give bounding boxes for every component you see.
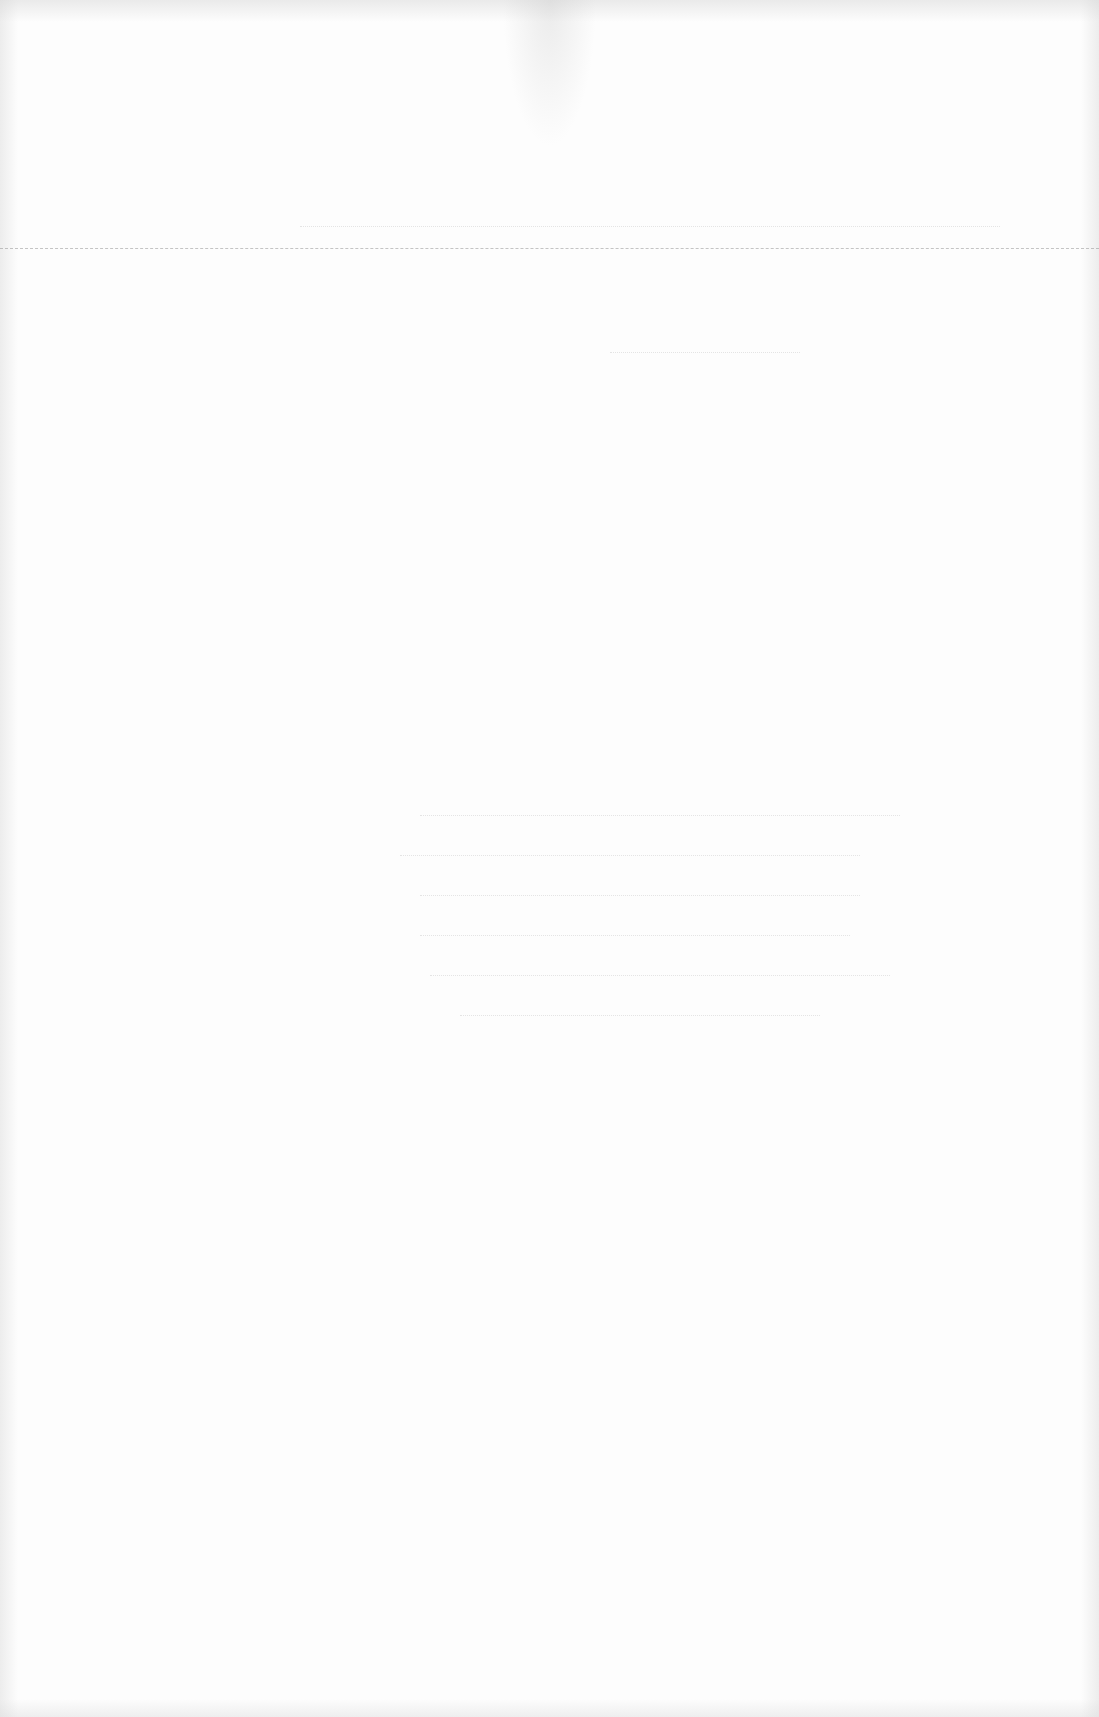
bleed-through-line: [300, 226, 1000, 227]
bleed-through-line: [610, 352, 800, 353]
scanned-page: [0, 0, 1099, 1717]
bleed-through-line: [420, 815, 900, 816]
bleed-through-line: [420, 895, 860, 896]
bleed-through-line: [420, 935, 850, 936]
bleed-through-line: [430, 975, 890, 976]
horizontal-rule: [0, 248, 1099, 249]
bleed-through-line: [400, 855, 860, 856]
bleed-through-line: [460, 1015, 820, 1016]
